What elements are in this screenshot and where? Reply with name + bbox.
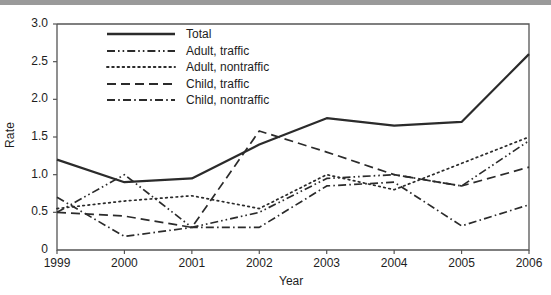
series-line-2 <box>57 137 529 209</box>
legend-label: Total <box>186 27 211 41</box>
legend-line-sample <box>105 27 177 41</box>
legend-label: Child, nontraffic <box>186 93 269 107</box>
chart-figure: Rate Year 00.51.01.52.02.53.0 1999200020… <box>0 0 551 295</box>
legend-item: Child, traffic <box>105 76 320 93</box>
legend-label: Adult, nontraffic <box>186 60 269 74</box>
legend-line-sample <box>105 77 177 91</box>
legend-item: Adult, nontraffic <box>105 59 320 76</box>
legend-line-sample <box>105 93 177 107</box>
series-line-3 <box>57 131 529 227</box>
legend-line-sample <box>105 44 177 58</box>
chart-legend: TotalAdult, trafficAdult, nontrafficChil… <box>105 26 320 109</box>
series-line-1 <box>57 141 529 228</box>
series-line-4 <box>57 182 529 236</box>
legend-item: Adult, traffic <box>105 43 320 60</box>
legend-label: Adult, traffic <box>186 44 249 58</box>
legend-item: Total <box>105 26 320 43</box>
legend-label: Child, traffic <box>186 77 249 91</box>
legend-item: Child, nontraffic <box>105 92 320 109</box>
legend-line-sample <box>105 60 177 74</box>
